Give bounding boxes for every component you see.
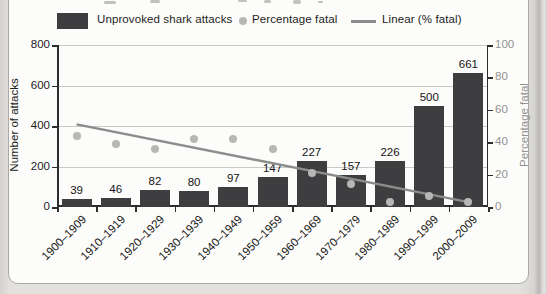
fatal-percentage-dot — [151, 145, 159, 153]
fatal-percentage-dot — [425, 192, 433, 200]
x-axis-tick — [253, 207, 255, 212]
x-axis-category-label: 2000–2009 — [406, 213, 480, 287]
x-axis-tick — [410, 207, 412, 212]
left-axis-title: Number of attacks — [8, 44, 20, 206]
x-axis-tick — [292, 207, 294, 212]
left-axis-tick-label: 800 — [16, 38, 50, 50]
x-axis-tick — [96, 207, 98, 212]
right-axis-tick — [488, 77, 493, 79]
x-axis-category-label: 1920–1929 — [93, 213, 167, 287]
right-axis-tick — [488, 175, 493, 177]
x-axis-category-label: 1970–1979 — [289, 213, 363, 287]
x-axis-category-label: 1940–1949 — [171, 213, 245, 287]
x-axis-tick — [488, 207, 490, 212]
right-axis-title: Percentage fatal — [518, 44, 530, 206]
fatal-percentage-dot — [269, 145, 277, 153]
trend-line — [57, 45, 488, 207]
right-axis-tick — [488, 45, 493, 47]
x-axis-category-label: 1900–1909 — [15, 213, 89, 287]
x-axis-category-label: 1990–1999 — [367, 213, 441, 287]
x-axis-tick — [370, 207, 372, 212]
x-axis-tick — [214, 207, 216, 212]
left-axis-tick-label: 600 — [16, 79, 50, 91]
x-axis-tick — [331, 207, 333, 212]
left-axis-tick-label: 400 — [16, 119, 50, 131]
x-axis-category-label: 1930–1939 — [132, 213, 206, 287]
right-axis-tick — [488, 110, 493, 112]
shark-attacks-chart: 0200400600800020406080100394682809714722… — [0, 0, 547, 294]
x-axis-category-label: 1910–1919 — [54, 213, 128, 287]
x-axis-category-label: 1980–1989 — [328, 213, 402, 287]
x-axis-tick — [175, 207, 177, 212]
fatal-percentage-dot — [73, 132, 81, 140]
left-axis-tick-label: 200 — [16, 160, 50, 172]
left-axis-tick-label: 0 — [16, 200, 50, 212]
book-page-photo: { "legend": [ {"swatch": "bar", "label":… — [0, 0, 547, 294]
fatal-percentage-dot — [112, 140, 120, 148]
right-axis-tick — [488, 142, 493, 144]
x-axis-tick — [449, 207, 451, 212]
x-axis-tick — [57, 207, 59, 212]
fatal-percentage-dot — [308, 169, 316, 177]
x-axis-tick — [135, 207, 137, 212]
x-axis-category-label: 1960–1969 — [250, 213, 324, 287]
x-axis-category-label: 1950–1959 — [210, 213, 284, 287]
